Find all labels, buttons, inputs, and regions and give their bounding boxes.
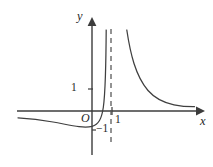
curve-left-branch [18,30,106,127]
origin-label: O [81,112,90,124]
curve-right-branch [127,30,195,107]
x-tick-label-1: 1 [115,114,121,126]
y-axis-label: y [77,10,83,23]
x-axis-label: x [200,115,206,128]
y-axis-arrowhead [88,17,97,26]
y-tick-label-1: 1 [71,82,77,94]
plot-canvas [0,0,213,167]
y-tick-label-minus-1: −1 [96,123,108,135]
function-graph-figure: y x O 1 1 −1 [0,0,213,167]
